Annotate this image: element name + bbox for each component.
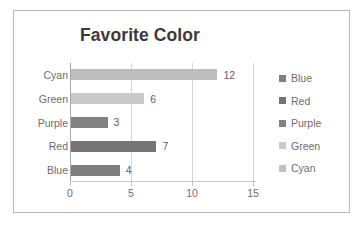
bar-cyan (71, 69, 217, 80)
bar-green (71, 93, 144, 104)
bar-row-cyan: 12 (71, 63, 256, 87)
x-tick-label-10: 10 (186, 187, 198, 199)
bars-plot: 12 6 3 7 4 (70, 63, 256, 182)
x-tick-mark-15 (253, 182, 254, 186)
bar-row-green: 6 (71, 87, 256, 111)
y-axis-label-blue: Blue (14, 164, 68, 176)
legend-label-purple: Purple (291, 117, 321, 129)
legend-item-red: Red (279, 90, 351, 113)
legend-swatch-blue-icon (279, 75, 286, 82)
bar-value-purple: 3 (114, 116, 120, 128)
x-tick-mark-0 (70, 182, 71, 186)
chart-legend: Blue Red Purple Green Cyan (279, 67, 351, 180)
legend-label-red: Red (291, 95, 310, 107)
y-axis-label-purple: Purple (14, 117, 68, 129)
legend-label-green: Green (291, 140, 320, 152)
y-axis-label-red: Red (14, 140, 68, 152)
bar-value-cyan: 12 (223, 69, 235, 81)
bar-red (71, 141, 156, 152)
legend-swatch-red-icon (279, 97, 286, 104)
bar-value-red: 7 (162, 140, 168, 152)
legend-swatch-purple-icon (279, 120, 286, 127)
x-axis-ticks: 0 5 10 15 (70, 182, 256, 204)
y-axis-label-cyan: Cyan (14, 69, 68, 81)
x-tick-mark-5 (131, 182, 132, 186)
legend-item-green: Green (279, 135, 351, 158)
legend-label-cyan: Cyan (291, 162, 316, 174)
x-tick-label-0: 0 (67, 187, 73, 199)
bar-row-red: 7 (71, 134, 256, 158)
x-tick-mark-10 (192, 182, 193, 186)
legend-item-cyan: Cyan (279, 157, 351, 180)
legend-label-blue: Blue (291, 72, 312, 84)
legend-item-purple: Purple (279, 112, 351, 135)
bar-blue (71, 165, 120, 176)
y-axis-category-labels: Cyan Green Purple Red Blue (14, 63, 68, 182)
x-tick-label-15: 15 (247, 187, 259, 199)
bar-value-blue: 4 (126, 164, 132, 176)
legend-swatch-green-icon (279, 142, 286, 149)
bar-value-green: 6 (150, 93, 156, 105)
y-axis-label-green: Green (14, 93, 68, 105)
plot-area: Cyan Green Purple Red Blue 12 6 3 (14, 63, 266, 211)
chart-container: Favorite Color Cyan Green Purple Red Blu… (13, 10, 350, 213)
bar-row-purple: 3 (71, 111, 256, 135)
bar-purple (71, 117, 108, 128)
bar-row-blue: 4 (71, 158, 256, 182)
x-tick-label-5: 5 (128, 187, 134, 199)
legend-swatch-cyan-icon (279, 165, 286, 172)
legend-item-blue: Blue (279, 67, 351, 90)
chart-title: Favorite Color (14, 25, 266, 46)
